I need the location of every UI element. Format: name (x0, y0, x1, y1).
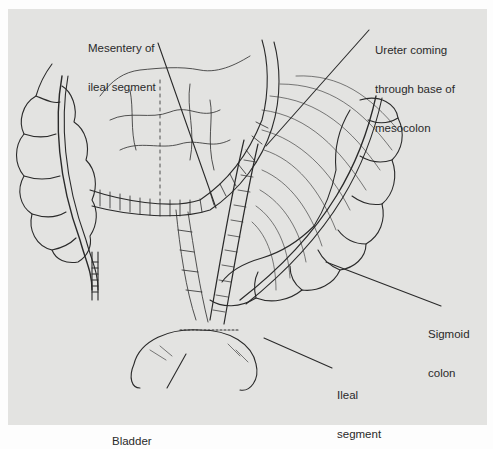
label-ureter: Ureter coming through base of mesocolon (375, 18, 455, 148)
label-bladder: Bladder (112, 409, 152, 449)
label-mesentery: Mesentery of ileal segment (88, 16, 156, 107)
bladder (131, 330, 257, 390)
ureter (210, 140, 258, 324)
label-ileal-segment: Ileal segment (337, 363, 381, 449)
ascending-colon (17, 64, 99, 300)
label-sigmoid-colon: Sigmoid colon (428, 302, 470, 393)
